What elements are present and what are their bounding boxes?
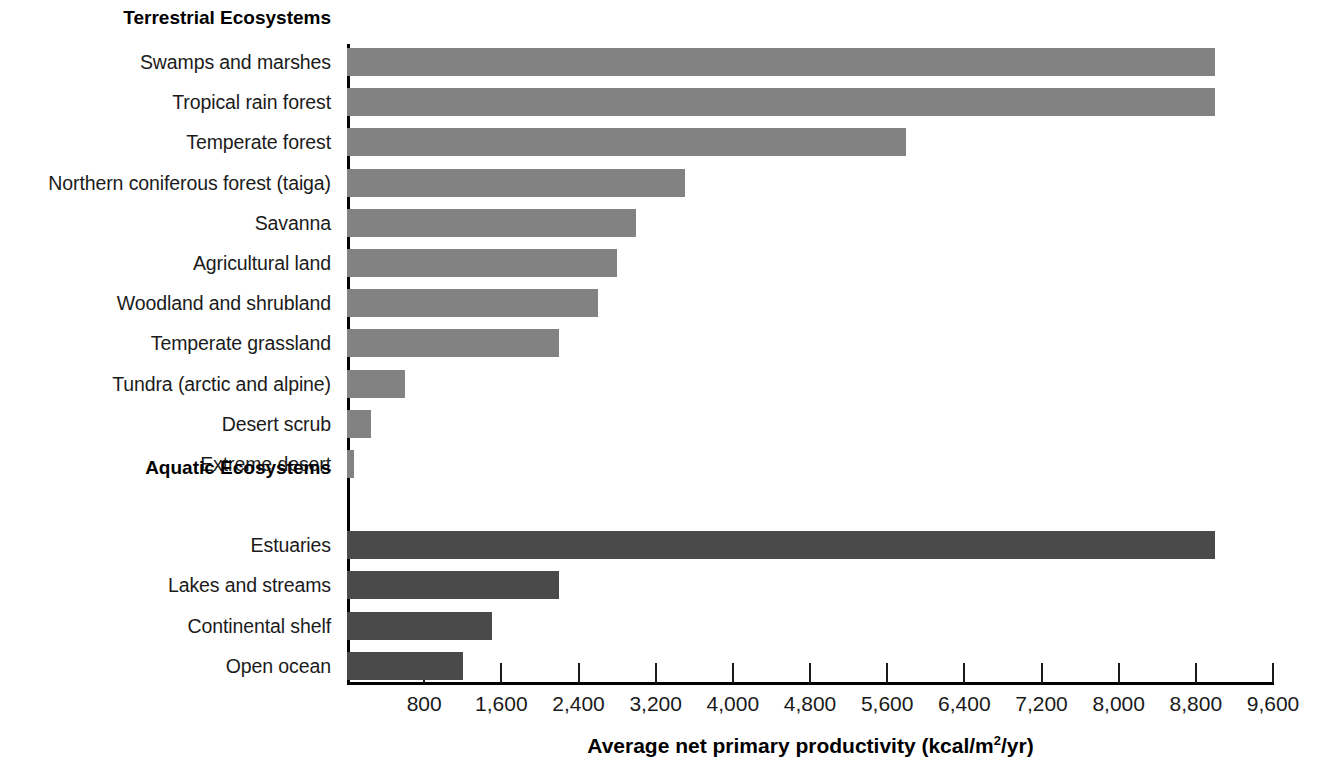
bar xyxy=(347,289,598,317)
x-tick-label-1600: 1,600 xyxy=(475,692,528,716)
bar xyxy=(347,612,492,640)
x-tick-label-800: 800 xyxy=(407,692,442,716)
x-tick-8800 xyxy=(1195,663,1197,683)
category-label: Swamps and marshes xyxy=(0,52,331,72)
x-axis-title: Average net primary productivity (kcal/m… xyxy=(347,733,1274,758)
category-label: Savanna xyxy=(0,213,331,233)
category-label: Northern coniferous forest (taiga) xyxy=(0,173,331,193)
category-label: Tundra (arctic and alpine) xyxy=(0,374,331,394)
x-tick-label-2400: 2,400 xyxy=(552,692,605,716)
x-tick-2400 xyxy=(578,663,580,683)
bar xyxy=(347,88,1215,116)
category-label: Desert scrub xyxy=(0,414,331,434)
x-tick-4800 xyxy=(809,663,811,683)
category-label: Continental shelf xyxy=(0,616,331,636)
bar xyxy=(347,48,1215,76)
bar xyxy=(347,531,1215,559)
category-label: Open ocean xyxy=(0,656,331,676)
bar xyxy=(347,370,405,398)
category-label: Tropical rain forest xyxy=(0,92,331,112)
bar xyxy=(347,169,685,197)
x-tick-label-9600: 9,600 xyxy=(1247,692,1300,716)
x-tick-label-5600: 5,600 xyxy=(861,692,914,716)
x-tick-9600 xyxy=(1272,663,1274,683)
x-tick-5600 xyxy=(886,663,888,683)
bar xyxy=(347,329,559,357)
bar xyxy=(347,249,617,277)
category-label: Woodland and shrubland xyxy=(0,293,331,313)
category-label: Temperate forest xyxy=(0,132,331,152)
x-tick-label-4800: 4,800 xyxy=(784,692,837,716)
bar xyxy=(347,571,559,599)
x-tick-4000 xyxy=(732,663,734,683)
x-tick-label-8800: 8,800 xyxy=(1170,692,1223,716)
x-tick-3200 xyxy=(655,663,657,683)
bar xyxy=(347,209,636,237)
bar xyxy=(347,652,463,680)
x-tick-6400 xyxy=(963,663,965,683)
x-tick-label-7200: 7,200 xyxy=(1015,692,1068,716)
x-tick-1600 xyxy=(500,663,502,683)
x-tick-label-8000: 8,000 xyxy=(1092,692,1145,716)
plot-area: 8001,6002,4003,2004,0004,8005,6006,4007,… xyxy=(347,0,1332,779)
bar xyxy=(347,410,371,438)
x-tick-8000 xyxy=(1118,663,1120,683)
bar xyxy=(347,128,906,156)
x-tick-7200 xyxy=(1041,663,1043,683)
x-tick-label-6400: 6,400 xyxy=(938,692,991,716)
category-label: Estuaries xyxy=(0,535,331,555)
chart-container: Terrestrial EcosystemsSwamps and marshes… xyxy=(0,0,1332,779)
x-tick-label-4000: 4,000 xyxy=(707,692,760,716)
section-header-aquatic: Aquatic Ecosystems xyxy=(0,458,331,478)
category-label: Temperate grassland xyxy=(0,333,331,353)
category-label: Lakes and streams xyxy=(0,575,331,595)
bar xyxy=(347,450,354,478)
x-tick-label-3200: 3,200 xyxy=(629,692,682,716)
category-label: Agricultural land xyxy=(0,253,331,273)
section-header-terrestrial: Terrestrial Ecosystems xyxy=(0,8,331,28)
